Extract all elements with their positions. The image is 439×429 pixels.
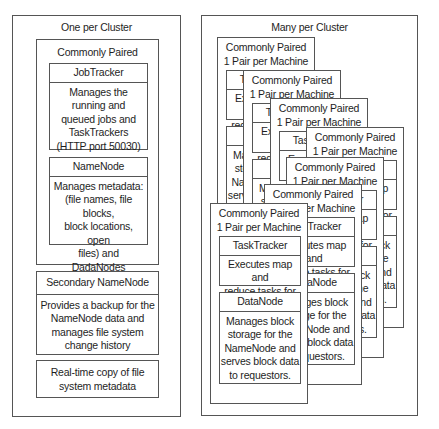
jobtracker-box: JobTracker Manages the running and queue… [49, 63, 148, 150]
card-title-line: Commonly Paired [271, 102, 367, 116]
machine-pair-card-front: Commonly Paired 1 Pair per Machine TaskT… [210, 203, 308, 404]
text-line: serves block data [220, 355, 300, 369]
namenode-title: NameNode [50, 158, 147, 177]
card-title: Commonly Paired 1 Pair per Machine [218, 38, 314, 68]
datanode-title: DataNode [220, 293, 300, 312]
card-title-line: Commonly Paired [211, 207, 307, 221]
group-title: Commonly Paired [37, 46, 158, 60]
text-line: system metadata [37, 380, 158, 394]
text-line: Manages metadata: [52, 180, 145, 194]
jobtracker-title: JobTracker [50, 64, 147, 83]
tasktracker-title: TaskTracker [220, 237, 300, 256]
text-line: change history [39, 339, 156, 353]
card-title-line: Commonly Paired [287, 161, 383, 175]
card-title-line: Commonly Paired [244, 74, 340, 88]
card-title-line: 1 Pair per Machine [307, 145, 403, 159]
card-title-line: Commonly Paired [307, 131, 403, 145]
text-line: Executes map and [220, 258, 300, 285]
text-line: running and [52, 99, 145, 113]
text-line: block locations, open [52, 220, 145, 247]
text-line: TaskTrackers [52, 126, 145, 140]
tasktracker-box: TaskTracker Executes map and reduce task… [219, 236, 301, 286]
text-line: Manages the [52, 86, 145, 100]
text-line: (HTTP port 50030) [52, 140, 145, 154]
text-line: queued jobs and [52, 113, 145, 127]
card-title: Commonly Paired 1 Pair per Machine [271, 99, 367, 129]
text-line: NameNode data and [39, 312, 156, 326]
panel-title: One per Cluster [13, 21, 180, 35]
text-line: (file names, file blocks, [52, 193, 145, 220]
card-title: Commonly Paired 1 Pair per Machine [211, 204, 307, 234]
secondary-namenode-title: Secondary NameNode [37, 272, 158, 295]
card-title: Commonly Paired 1 Pair per Machine [307, 128, 403, 158]
text-line: Real-time copy of file [37, 366, 158, 380]
secondary-namenode-box: Secondary NameNode Provides a backup for… [36, 271, 159, 355]
panel-title: Many per Cluster [202, 21, 417, 35]
one-per-cluster-panel: One per Cluster Commonly Paired JobTrack… [12, 15, 181, 417]
realtime-copy-box: Real-time copy of file system metadata [36, 360, 159, 398]
text-line: manages file system [39, 326, 156, 340]
card-title: Commonly Paired 1 Pair per Machine [244, 71, 340, 101]
card-title-line: Commonly Paired [218, 41, 314, 55]
card-title-line: Commonly Paired [265, 188, 361, 202]
jobtracker-description: Manages the running and queued jobs and … [50, 83, 147, 157]
datanode-description: Manages block storage for the NameNode a… [220, 312, 300, 386]
text-line: Manages block [220, 315, 300, 329]
datanode-box: DataNode Manages block storage for the N… [219, 292, 301, 384]
text-line: Provides a backup for the [39, 299, 156, 313]
text-line: files) and DadaNodes [52, 247, 145, 274]
card-title-line: 1 Pair per Machine [211, 221, 307, 235]
card-title-line: 1 Pair per Machine [218, 55, 314, 69]
text-line: storage for the [220, 328, 300, 342]
commonly-paired-group: Commonly Paired JobTracker Manages the r… [36, 39, 159, 265]
text-line: NameNode and [220, 342, 300, 356]
secondary-namenode-description: Provides a backup for the NameNode data … [37, 295, 158, 356]
text-line: to requestors. [220, 369, 300, 383]
namenode-box: NameNode Manages metadata: (file names, … [49, 157, 148, 245]
